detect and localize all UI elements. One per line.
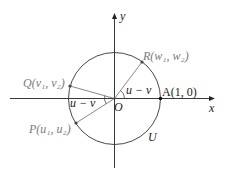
x-axis-label: x xyxy=(208,101,215,115)
point-A-label: A(1, 0) xyxy=(162,85,197,99)
point-Q-label: Q(v₁, v₂) xyxy=(23,76,65,90)
origin-label: O xyxy=(114,100,123,114)
y-axis-label: y xyxy=(119,9,126,23)
angle-arc-AOR xyxy=(121,91,125,99)
unit-circle-diagram: y x O U A(1, 0) R(w₁, w₂) Q(v₁, v₂) P(u₁… xyxy=(0,0,230,178)
angle-label-AOR: u − v xyxy=(126,83,152,97)
circle-label: U xyxy=(148,130,158,144)
point-Q xyxy=(68,84,71,87)
angle-label-POQ: u − v xyxy=(70,96,96,110)
point-R-label: R(w₁, w₂) xyxy=(142,49,189,63)
point-P xyxy=(74,121,77,124)
angle-arc-POQ xyxy=(104,96,106,104)
point-P-label: P(u₁, u₂) xyxy=(28,122,71,136)
